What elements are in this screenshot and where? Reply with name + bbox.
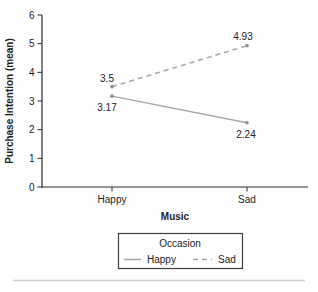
- point-label-sad-happy: 3.5: [100, 73, 114, 84]
- interaction-line-chart: Purchase Intention (mean) 0123456 Happy …: [0, 0, 318, 292]
- legend-label-sad: Sad: [218, 254, 236, 265]
- point-label-sad-sad: 4.93: [233, 31, 253, 42]
- interaction-plot-figure: Purchase Intention (mean) 0123456 Happy …: [0, 0, 318, 292]
- legend: Occasion Happy Sad: [119, 234, 243, 269]
- y-axis-ticks: 0123456: [29, 10, 42, 193]
- point-label-happy-happy: 3.17: [97, 102, 117, 113]
- data-point-marker: [245, 44, 249, 48]
- series-line-happy: [112, 96, 247, 123]
- x-tick-label-sad: Sad: [238, 194, 256, 205]
- y-tick-label: 3: [29, 96, 35, 107]
- y-tick-label: 1: [29, 153, 35, 164]
- data-point-marker: [245, 121, 249, 125]
- y-tick-label: 4: [29, 67, 35, 78]
- y-axis-title: Purchase Intention (mean): [4, 38, 15, 164]
- point-label-happy-sad: 2.24: [236, 129, 256, 140]
- data-point-marker: [110, 94, 114, 98]
- x-tick-label-happy: Happy: [98, 194, 127, 205]
- legend-label-happy: Happy: [147, 254, 176, 265]
- y-tick-label: 6: [29, 10, 35, 21]
- y-tick-label: 2: [29, 124, 35, 135]
- y-tick-label: 5: [29, 38, 35, 49]
- series-layer: [110, 44, 249, 125]
- legend-title: Occasion: [159, 238, 201, 249]
- y-tick-label: 0: [29, 182, 35, 193]
- x-axis-title: Music: [161, 211, 190, 222]
- data-point-marker: [110, 85, 114, 89]
- series-line-sad: [112, 46, 247, 87]
